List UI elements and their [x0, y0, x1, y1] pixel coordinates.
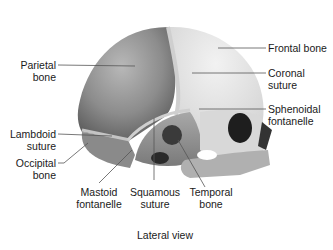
label-line: Coronal [268, 67, 305, 79]
label-line: Temporal [186, 186, 236, 198]
label-line: fontanelle [268, 115, 321, 127]
label-line: Mastoid [68, 186, 130, 198]
label-parietal-bone: Parietal bone [14, 59, 56, 83]
label-lambdoid-suture: Lambdoid suture [6, 128, 56, 152]
label-coronal-suture: Coronal suture [268, 67, 305, 91]
label-occipital-bone: Occipital bone [6, 157, 56, 181]
label-line: Sphenoidal [268, 103, 321, 115]
label-line: Squamous [128, 186, 182, 198]
label-squamous-suture: Squamous suture [128, 186, 182, 210]
label-line: suture [128, 198, 182, 210]
label-frontal-bone: Frontal bone [268, 42, 327, 54]
label-mastoid-fontanelle: Mastoid fontanelle [68, 186, 130, 210]
label-temporal-bone: Temporal bone [186, 186, 236, 210]
label-line: Occipital [6, 157, 56, 169]
figure-caption: Lateral view [120, 229, 210, 241]
label-line: suture [6, 140, 56, 152]
label-line: Lambdoid [6, 128, 56, 140]
label-sphenoidal-fontanelle: Sphenoidal fontanelle [268, 103, 321, 127]
label-line: Parietal [14, 59, 56, 71]
orbit [228, 113, 252, 143]
label-line: suture [268, 79, 305, 91]
label-line: Frontal bone [268, 42, 327, 54]
label-line: fontanelle [68, 198, 130, 210]
label-line: bone [186, 198, 236, 210]
label-line: bone [6, 169, 56, 181]
label-line: bone [14, 71, 56, 83]
